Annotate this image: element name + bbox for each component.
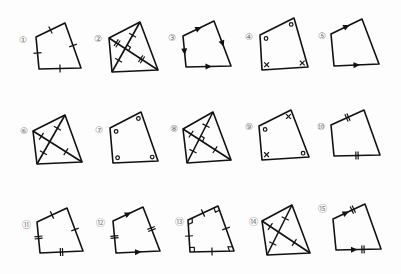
figure-number-label: ⑩ [317,123,325,132]
figure-number-label: ⑤ [318,32,326,41]
figure-number-label: ⑥ [20,127,28,136]
quadrilateral-outline [331,19,379,66]
quadrilateral-figure-7 [110,112,158,163]
figure-number-label: ⑫ [96,219,105,228]
quadrilateral-figure-14 [262,205,310,255]
figure-number-label: ⑨ [245,123,253,132]
quadrilateral-outline [331,110,380,156]
figure-number-label: ⑧ [170,125,178,134]
figure-number-label: ② [94,35,102,44]
quadrilateral-figure-12 [110,207,160,255]
quadrilateral-figure-4 [260,18,308,70]
quadrilateral-outline [333,204,381,250]
figure-number-label: ④ [245,33,253,42]
figure-number-label: ⑬ [175,218,184,227]
quadrilateral-figure-8 [183,112,231,163]
quadrilateral-figure-3 [181,21,231,70]
figure-number-label: ⑪ [22,221,31,230]
figure-number-label: ⑮ [318,205,327,214]
quadrilateral-figure-11 [34,208,83,256]
diagonal-line [262,221,310,253]
quadrilateral-figure-13 [185,206,234,255]
figure-number-label: ③ [168,34,176,43]
quadrilateral-outline [37,208,83,253]
quadrilateral-figure-2 [109,22,158,72]
figures-canvas [0,0,401,274]
quadrilateral-figure-6 [33,115,82,164]
quadrilateral-figure-15 [333,204,381,253]
quadrilateral-outline [188,206,234,252]
quadrilateral-figure-1 [34,23,81,72]
quadrilateral-figure-5 [331,19,379,68]
quadrilateral-figure-9 [259,110,309,160]
figure-number-label: ⑦ [95,126,103,135]
figure-number-label: ① [19,36,27,45]
quadrilateral-figure-10 [331,110,380,160]
quadrilateral-outline [36,23,81,69]
quadrilateral-worksheet: ①②③④⑤⑥⑦⑧⑨⑩⑪⑫⑬⑭⑮ [0,0,401,274]
figure-number-label: ⑭ [249,218,258,227]
